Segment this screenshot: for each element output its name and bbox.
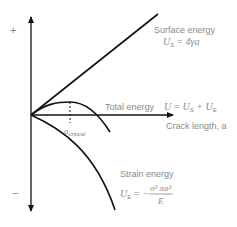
strain-energy-curve [31,115,115,210]
surface-energy-label: Surface energy [154,25,216,35]
strain-energy-numerator: σ² πa² [150,183,171,193]
a-critical-label: acritical [64,126,86,137]
surface-energy-line [31,14,158,115]
strain-energy-denominator: E [157,196,164,206]
energy-diagram: + − Surface energy US= 4γa Total energy … [0,0,237,227]
x-axis-label: Crack length, a [166,121,227,131]
total-energy-label: Total energy [105,102,155,112]
y-plus-label: + [10,24,16,36]
strain-energy-lhs: UE= − [120,188,149,200]
total-energy-equation: U= US + UE [164,101,217,113]
strain-energy-label: Strain energy [120,169,174,179]
y-minus-label: − [12,187,18,199]
surface-energy-equation: US= 4γa [163,36,199,48]
